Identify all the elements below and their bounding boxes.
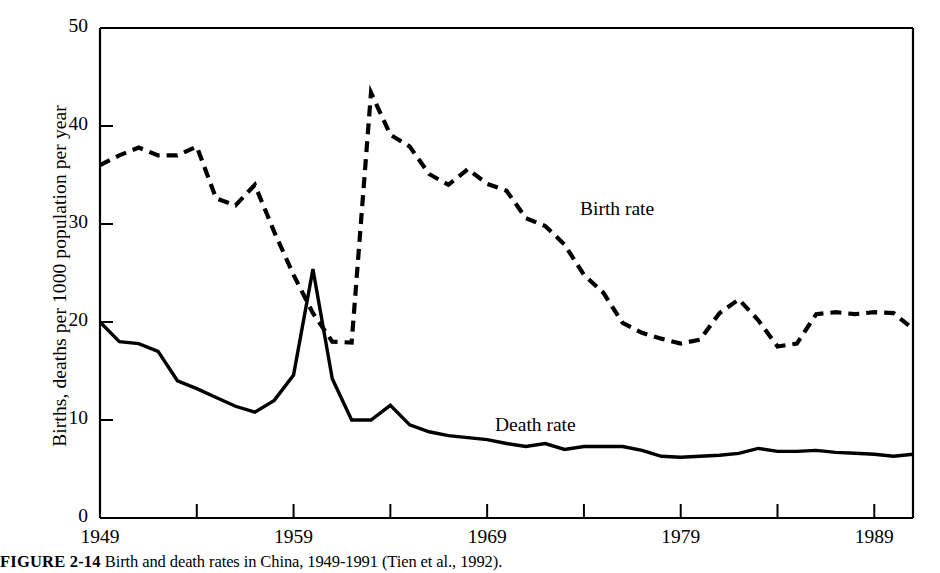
birth-rate-series-label: Birth rate xyxy=(580,198,654,220)
chart-plot-area xyxy=(0,0,940,545)
y-tick-label-10: 10 xyxy=(48,407,88,429)
data-series-layer xyxy=(100,93,913,458)
x-tick-label-1949: 1949 xyxy=(60,526,140,548)
figure-container: Births, deaths per 1000 population per y… xyxy=(0,0,940,573)
y-tick-label-0: 0 xyxy=(48,505,88,527)
death-rate-series-label: Death rate xyxy=(495,414,576,436)
x-axis-ticks xyxy=(100,504,874,518)
y-axis-ticks xyxy=(100,28,113,518)
series-birth-rate xyxy=(100,93,913,347)
y-tick-label-20: 20 xyxy=(48,309,88,331)
x-tick-label-1969: 1969 xyxy=(447,526,527,548)
y-tick-label-30: 30 xyxy=(48,211,88,233)
figure-caption-text: Birth and death rates in China, 1949-199… xyxy=(105,552,502,571)
y-tick-label-50: 50 xyxy=(48,15,88,37)
x-tick-label-1989: 1989 xyxy=(834,526,914,548)
figure-caption: FIGURE 2-14 Birth and death rates in Chi… xyxy=(0,552,940,572)
figure-caption-label: FIGURE 2-14 xyxy=(0,552,101,571)
y-tick-label-40: 40 xyxy=(48,113,88,135)
x-tick-label-1959: 1959 xyxy=(254,526,334,548)
x-tick-label-1979: 1979 xyxy=(641,526,721,548)
